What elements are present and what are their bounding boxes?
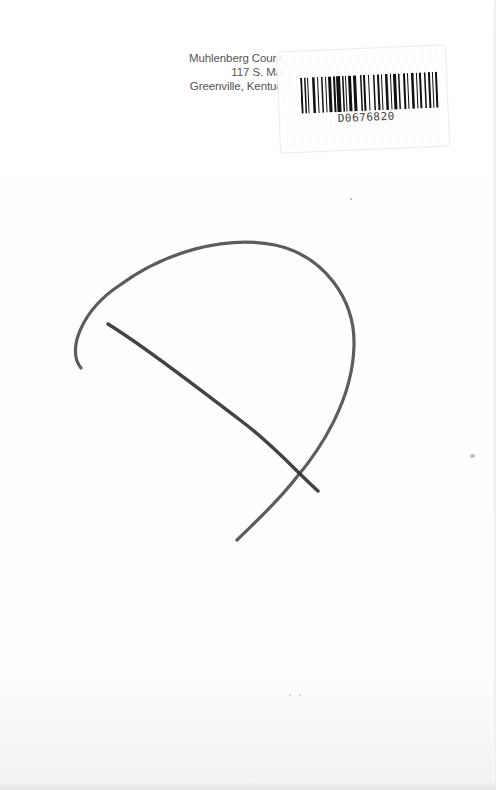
book-page: Muhlenberg Count 117 S. Ma Greenville, K… — [0, 0, 496, 790]
pencil-arc-stroke — [75, 242, 354, 540]
pencil-drawing — [0, 0, 496, 790]
paper-speck — [299, 694, 301, 696]
paper-speck — [470, 454, 475, 458]
pencil-diagonal-stroke — [108, 324, 318, 491]
paper-speck — [289, 694, 291, 696]
paper-speck — [350, 198, 352, 200]
